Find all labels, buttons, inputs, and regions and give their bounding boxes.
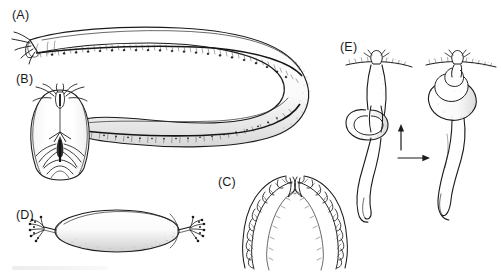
panel-d-illustration bbox=[22, 200, 212, 262]
anchor-filament-tuft-right bbox=[178, 216, 205, 243]
sequence-arrow bbox=[398, 155, 430, 161]
left-tooth-comb bbox=[243, 176, 296, 270]
panel-label-a: (A) bbox=[12, 8, 29, 22]
panel-c-illustration bbox=[240, 172, 350, 272]
panel-label-d: (D) bbox=[16, 208, 34, 222]
panel-label-b: (B) bbox=[16, 72, 33, 86]
head-attached-right bbox=[452, 51, 464, 65]
head-attached-left bbox=[371, 51, 383, 65]
panel-e-illustration bbox=[340, 44, 501, 234]
knot-loop-inner-left bbox=[354, 116, 383, 135]
scan-artifact bbox=[12, 266, 108, 270]
figure-plate: (A) bbox=[0, 0, 501, 277]
anterior-barbels bbox=[12, 32, 35, 64]
knot-travel-arrow bbox=[398, 124, 404, 150]
panel-b-illustration bbox=[14, 84, 106, 180]
panel-label-e: (E) bbox=[340, 40, 357, 54]
knot-stage-1 bbox=[346, 50, 412, 222]
panel-label-c: (C) bbox=[218, 175, 236, 189]
knot-stage-2 bbox=[426, 50, 496, 220]
